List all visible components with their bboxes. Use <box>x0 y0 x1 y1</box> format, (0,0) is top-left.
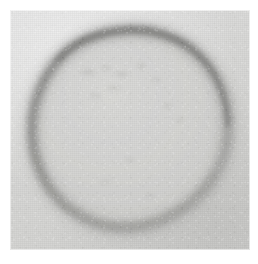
page-root <box>0 0 258 264</box>
micrograph-frame <box>10 10 250 250</box>
vesicle-object <box>10 10 250 250</box>
